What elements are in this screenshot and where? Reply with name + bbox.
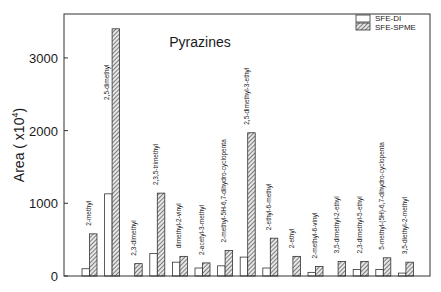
- bar-sfe-di: [195, 268, 203, 276]
- bar-sfe-spme: [270, 238, 278, 276]
- category-label: 2-acetyl-3-methyl: [198, 205, 206, 255]
- bar-sfe-spme: [406, 262, 414, 276]
- y-axis-label: Area ( x104): [10, 108, 27, 182]
- y-tick-label: 2000: [29, 124, 58, 139]
- bar-sfe-di: [263, 268, 271, 276]
- bar-sfe-spme: [90, 234, 98, 276]
- category-label: 2,3-dimethyl: [130, 220, 138, 256]
- bar-sfe-spme: [112, 29, 120, 276]
- category-label: 2,3,5-trimethyl: [152, 143, 160, 185]
- category-label: 2-ethyl: [288, 228, 296, 248]
- category-label: 3,5-dimethyl-2-ethyl: [333, 196, 341, 254]
- category-label: 5-methyl-(5H)-6,7-dihydro-cyclopenta: [378, 142, 386, 250]
- category-label: 2-methyl-5H-6,7-dihydro-cyclopenta: [220, 139, 228, 243]
- chart-canvas: 2-methyl2,5-dimethyl2,3-dimethyl2,3,5-tr…: [0, 0, 441, 292]
- category-label: 2-ethyl-6-methyl: [265, 183, 273, 230]
- category-label: 2-methyl-6-vinyl: [311, 212, 319, 258]
- legend-swatch-sfe-spme: [356, 23, 370, 30]
- bar-sfe-spme: [293, 256, 301, 276]
- bar-sfe-spme: [157, 193, 165, 276]
- category-label: dimethyl-2-vinyl: [175, 203, 183, 249]
- category-label: 2-methyl: [85, 200, 93, 225]
- bar-sfe-di: [82, 269, 90, 276]
- bar-sfe-spme: [180, 256, 188, 276]
- bar-sfe-di: [308, 272, 316, 276]
- bar-sfe-spme: [135, 264, 143, 276]
- bar-sfe-di: [240, 257, 248, 276]
- category-label: 2,5-dimethyl-3-ethyl: [243, 67, 251, 125]
- legend: SFE-DI SFE-SPME: [356, 14, 416, 32]
- y-tick-label: 1000: [29, 196, 58, 211]
- legend-swatch-sfe-di: [356, 15, 370, 22]
- y-tick-label: 0: [51, 269, 58, 284]
- category-labels: 2-methyl2,5-dimethyl2,3-dimethyl2,3,5-tr…: [85, 64, 409, 259]
- legend-label-sfe-spme: SFE-SPME: [375, 23, 416, 32]
- bar-sfe-spme: [383, 258, 391, 276]
- bar-chart: 2-methyl2,5-dimethyl2,3-dimethyl2,3,5-tr…: [0, 0, 441, 292]
- bar-sfe-di: [172, 262, 180, 276]
- bar-sfe-spme: [248, 133, 256, 276]
- category-label: 2,3-dimethyl-5-ethyl: [356, 196, 364, 254]
- y-tick-label: 3000: [29, 51, 58, 66]
- category-label: 2,5-dimethyl: [103, 64, 111, 100]
- legend-label-sfe-di: SFE-DI: [375, 14, 401, 23]
- chart-title: Pyrazines: [169, 34, 230, 50]
- bar-sfe-spme: [338, 261, 346, 276]
- bar-sfe-spme: [316, 267, 324, 276]
- bar-sfe-spme: [361, 261, 369, 276]
- bar-sfe-spme: [203, 263, 211, 276]
- bar-sfe-di: [150, 253, 158, 276]
- bar-sfe-spme: [225, 251, 233, 276]
- bar-sfe-di: [218, 266, 226, 276]
- category-label: 3,5-diethyl-2-methyl: [401, 197, 409, 255]
- bar-sfe-di: [105, 194, 113, 276]
- bar-sfe-di: [376, 269, 384, 276]
- y-axis: 0100020003000: [29, 51, 68, 284]
- bar-sfe-di: [353, 269, 361, 276]
